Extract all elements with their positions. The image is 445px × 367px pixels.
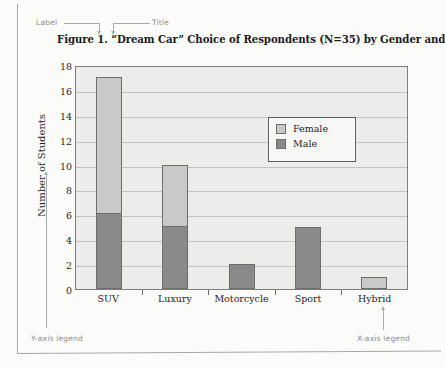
x-tick-label: SUV [75, 293, 142, 304]
y-tick-label: 2 [20, 260, 72, 271]
annotation-x-axis-leader [383, 310, 384, 330]
y-tick-label: 4 [20, 235, 72, 246]
scanned-page: Label Title Bar legend Y-axis legend X-a… [0, 0, 445, 367]
legend-swatch-male-icon [276, 139, 286, 149]
legend-entry-male: Male [276, 138, 355, 149]
x-tick-label: Sport [275, 293, 342, 304]
bar-slot [275, 67, 341, 289]
y-tick-label: 18 [20, 61, 72, 72]
y-tick-label: 10 [20, 160, 72, 171]
bar-slot [76, 67, 142, 289]
annotation-label-leader [64, 23, 100, 24]
bar-stack[interactable] [162, 165, 188, 289]
x-tick-label: Hybrid [341, 293, 408, 304]
page-border-bottom [17, 350, 441, 354]
y-tick-label: 8 [20, 185, 72, 196]
y-tick-label: 0 [20, 285, 72, 296]
figure-title: Figure 1. “Dream Car” Choice of Responde… [57, 33, 417, 45]
annotation-x-axis-legend: X-axis legend [357, 334, 410, 343]
y-tick-label: 14 [20, 110, 72, 121]
chart-plot-area [75, 66, 408, 290]
y-tick-label: 12 [20, 135, 72, 146]
x-tick-label: Motorcycle [208, 293, 275, 304]
bar-segment-female[interactable] [361, 277, 387, 289]
legend-label-female: Female [293, 123, 328, 134]
annotation-title: Title [152, 18, 169, 27]
y-tick-label: 6 [20, 210, 72, 221]
y-axis-tick-labels: 024681012141618 [14, 66, 72, 290]
bar-segment-female[interactable] [96, 77, 122, 214]
legend-label-male: Male [293, 138, 317, 149]
legend-swatch-female-icon [276, 124, 286, 134]
x-tick-label: Luxury [142, 293, 209, 304]
annotation-y-axis-legend: Y-axis legend [31, 334, 83, 343]
chart-legend: Female Male [268, 117, 356, 162]
bar-segment-male[interactable] [96, 214, 122, 289]
bar-segment-male[interactable] [229, 264, 255, 289]
bar-segment-male[interactable] [295, 227, 321, 289]
bar-stack[interactable] [295, 227, 321, 289]
bar-series-group [76, 67, 407, 289]
bar-segment-female[interactable] [162, 165, 188, 227]
bar-stack[interactable] [229, 264, 255, 289]
y-tick-label: 16 [20, 85, 72, 96]
legend-entry-female: Female [276, 123, 355, 134]
bar-stack[interactable] [361, 277, 387, 289]
bar-stack[interactable] [96, 77, 122, 289]
annotation-label: Label [36, 18, 57, 27]
bar-slot [208, 67, 274, 289]
bar-slot [142, 67, 208, 289]
annotation-title-leader [113, 23, 150, 24]
annotation-x-axis-arrowhead [381, 306, 385, 310]
bar-slot [341, 67, 407, 289]
x-axis-tick-labels: SUVLuxuryMotorcycleSportHybrid [75, 293, 408, 304]
bar-segment-male[interactable] [162, 227, 188, 289]
